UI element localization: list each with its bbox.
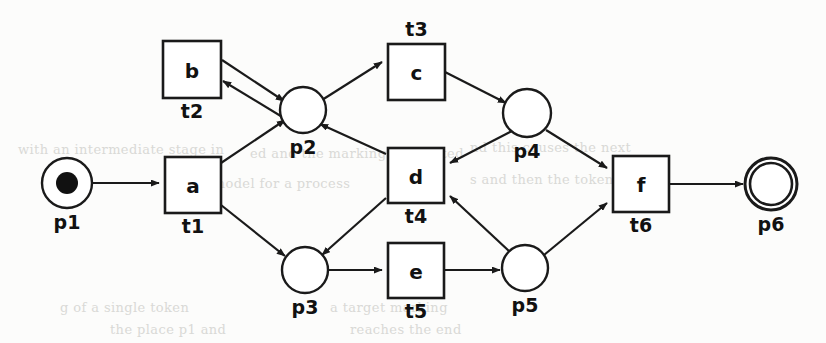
transition-activity-t5: e [409, 260, 423, 284]
petri-net-figure: with an intermediate stage ined and the … [0, 0, 826, 343]
place-p1[interactable] [42, 158, 92, 208]
transition-activity-t2: b [185, 59, 199, 83]
place-circle [280, 87, 326, 133]
place-circle [502, 245, 548, 291]
transition-label-t6: t6 [630, 214, 652, 236]
place-p4[interactable] [503, 89, 551, 137]
arc-t4-to-p2 [320, 124, 386, 154]
transition-activity-t4: d [409, 165, 423, 189]
place-p6[interactable] [745, 158, 797, 210]
place-label-p5: p5 [512, 294, 539, 316]
arc-t1-to-p3 [221, 205, 285, 256]
transition-activity-t6: f [637, 173, 646, 197]
arc-p4-to-t6 [546, 130, 607, 168]
transition-activity-t3: c [411, 61, 423, 85]
transition-activity-t1: a [186, 174, 200, 198]
place-circle [745, 158, 797, 210]
arc-p5-to-t4 [450, 196, 510, 252]
place-label-p2: p2 [290, 136, 317, 158]
transition-label-t2: t2 [181, 100, 203, 122]
arc-t4-to-p3 [322, 198, 386, 255]
place-circle [503, 89, 551, 137]
place-p2[interactable] [280, 87, 326, 133]
transition-label-t1: t1 [182, 215, 204, 237]
arc-t2-to-p2 [222, 60, 284, 101]
transition-label-t5: t5 [405, 300, 427, 322]
place-label-p1: p1 [54, 211, 81, 233]
transition-label-t3: t3 [405, 18, 427, 40]
place-label-p4: p4 [514, 140, 541, 162]
token-dot [56, 172, 78, 194]
arc-t3-to-p4 [445, 72, 506, 103]
arc-p4-to-t4 [450, 131, 512, 163]
place-label-p6: p6 [758, 213, 785, 235]
place-circle [282, 247, 328, 293]
arc-p2-to-t3 [322, 62, 382, 100]
arc-t1-to-p2 [221, 120, 285, 163]
arc-p5-to-t6 [544, 203, 607, 255]
place-p3[interactable] [282, 247, 328, 293]
place-p5[interactable] [502, 245, 548, 291]
place-label-p3: p3 [292, 296, 319, 318]
arc-p2-to-t2 [223, 81, 284, 118]
transition-label-t4: t4 [405, 205, 427, 227]
